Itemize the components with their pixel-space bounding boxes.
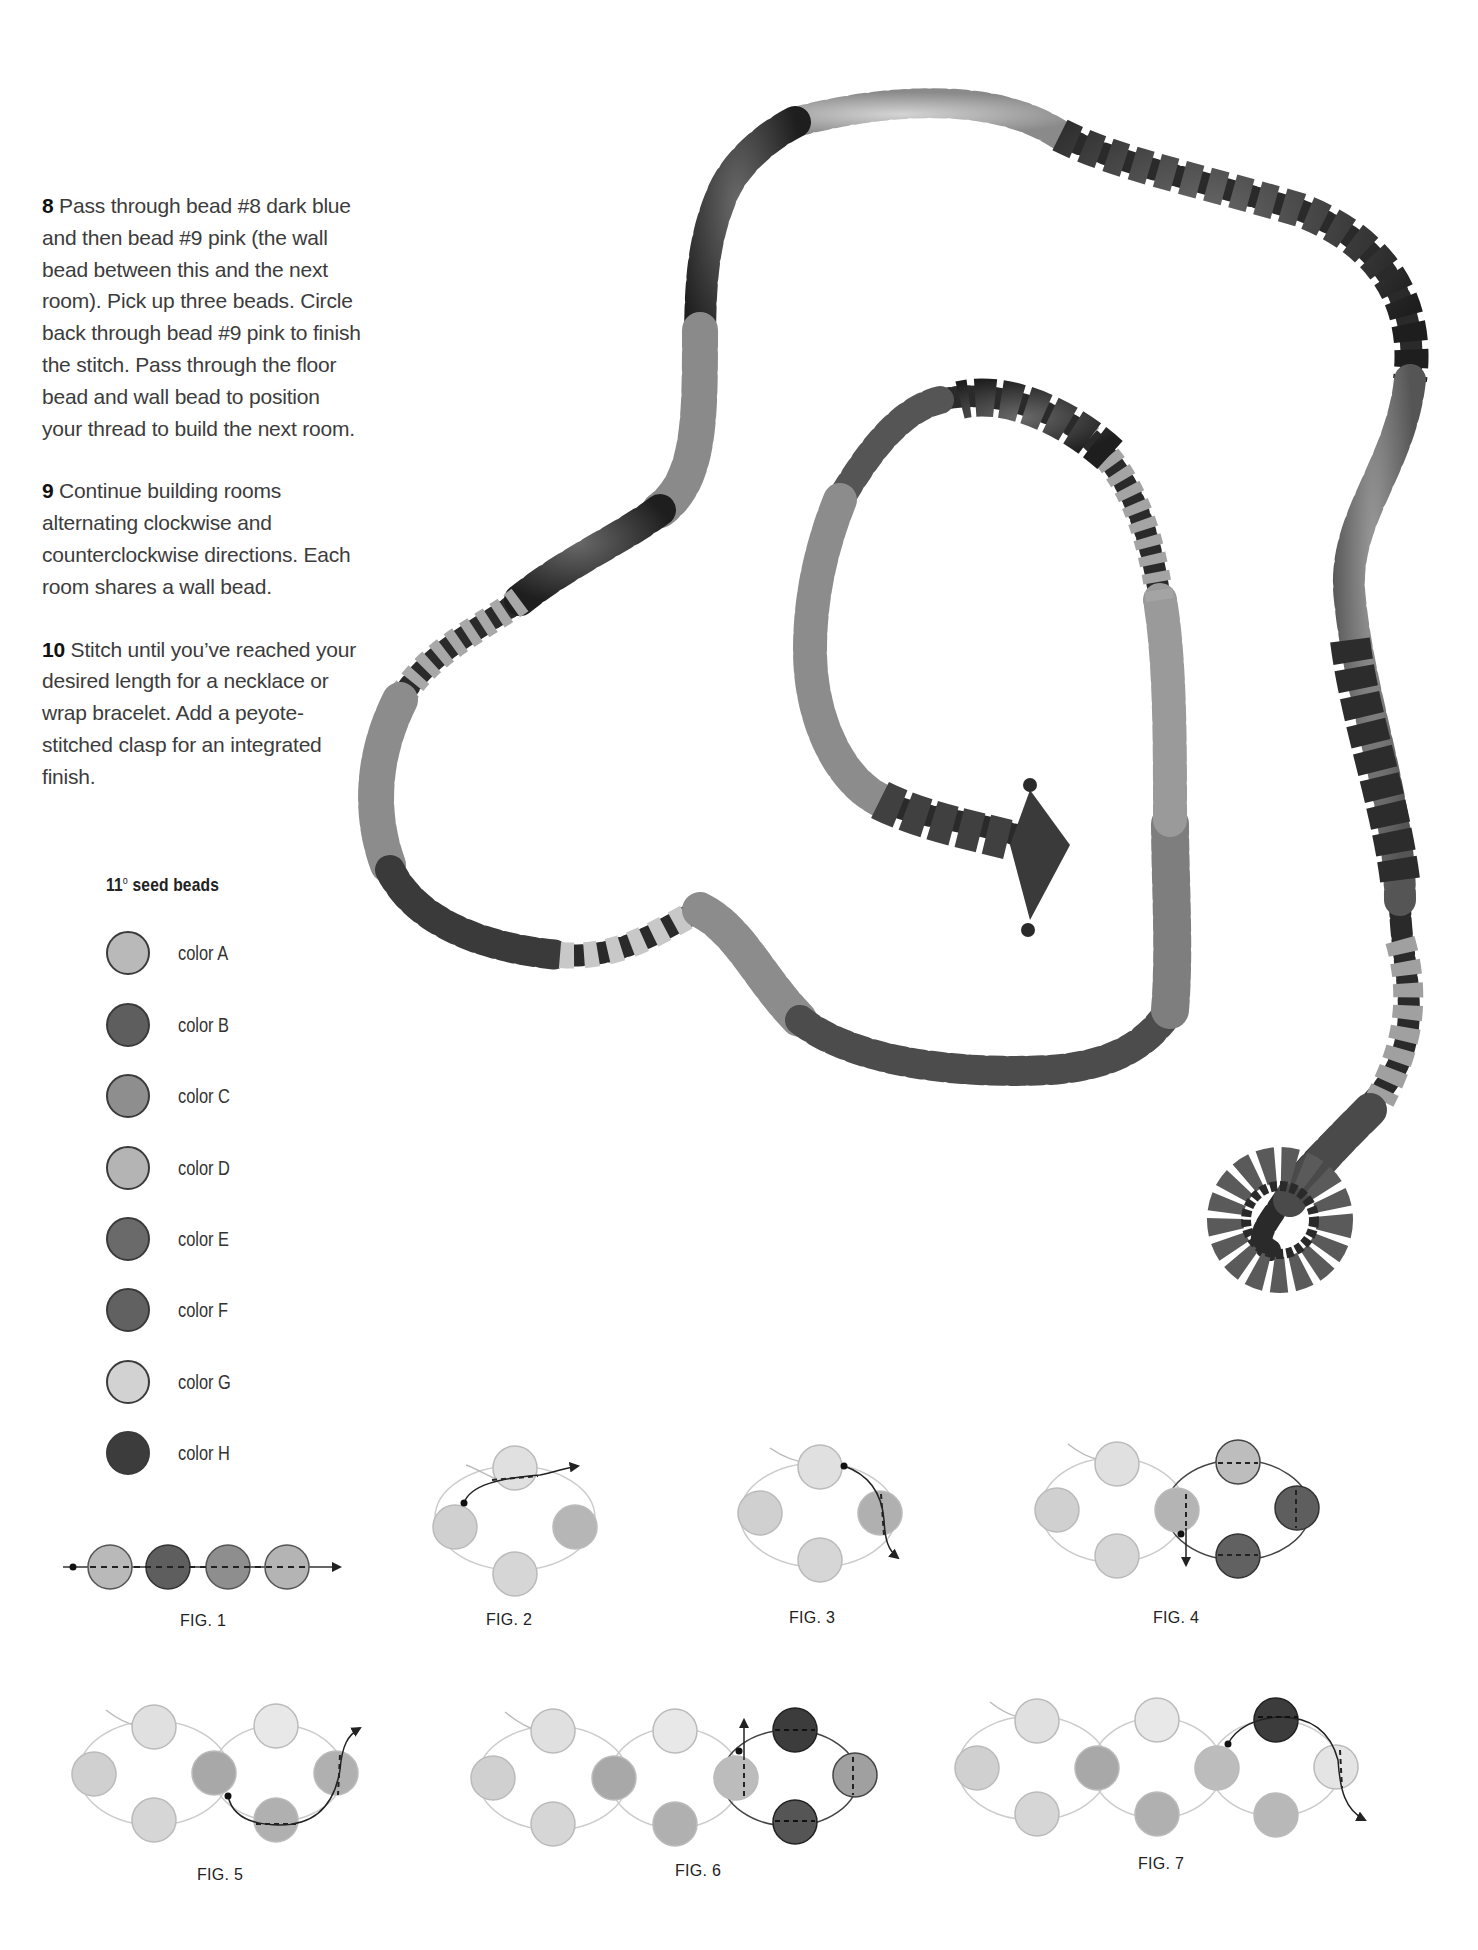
fig-5-caption: FIG. 5 [197, 1866, 243, 1884]
fig-6-diagram [471, 1708, 877, 1846]
fig-4-caption: FIG. 4 [1153, 1609, 1199, 1627]
fig-7-diagram [955, 1698, 1365, 1837]
fig-6-caption: FIG. 6 [675, 1862, 721, 1880]
fig-7-caption: FIG. 7 [1138, 1855, 1184, 1873]
fig-4-diagram [1035, 1440, 1319, 1578]
fig-3-caption: FIG. 3 [789, 1609, 835, 1627]
fig-2-caption: FIG. 2 [486, 1611, 532, 1629]
fig-3-diagram [738, 1445, 902, 1582]
stitch-diagrams [0, 0, 1478, 1950]
fig-5-diagram [72, 1704, 360, 1842]
fig-1-caption: FIG. 1 [180, 1612, 226, 1630]
fig-1-diagram [63, 1545, 340, 1589]
fig-2-diagram [433, 1446, 597, 1596]
